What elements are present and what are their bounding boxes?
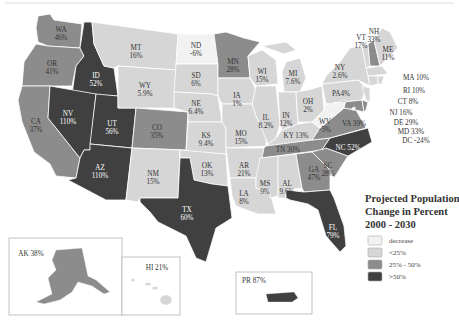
label-WA-abbr: WA	[55, 26, 67, 34]
label-NH-abbr: NH	[369, 28, 379, 36]
label-MS-abbr: MS	[260, 180, 270, 188]
label-AR-value: 21%	[237, 170, 250, 178]
legend-label-gt50: >50%	[389, 273, 406, 281]
label-VA: VA 39%	[342, 120, 366, 128]
label-SD-abbr: SD	[191, 72, 200, 80]
callout-DC: DC -24%	[402, 137, 429, 145]
population-change-map: WA46%OR41%CA37%ID52%NV110%UT56%AZ110%MT1…	[0, 0, 459, 326]
label-TN: TN 30%	[276, 146, 301, 154]
label-IN-value: 12%	[279, 120, 292, 128]
label-SD-value: 6%	[191, 80, 201, 88]
label-AZ-abbr: AZ	[95, 164, 105, 172]
label-MO-value: 15%	[234, 138, 247, 146]
label-IL-value: 8.2%	[259, 122, 274, 130]
inset-alaska: AK 38%	[9, 238, 122, 315]
legend-title-line-2: Change in Percent	[365, 206, 448, 217]
label-ME-abbr: ME	[383, 46, 394, 54]
label-WI-value: 15%	[255, 76, 268, 84]
label-ID-abbr: ID	[92, 72, 100, 80]
label-WV-abbr: WV	[319, 118, 332, 126]
label-MI-abbr: MI	[289, 70, 298, 78]
label-ID-value: 52%	[89, 80, 102, 88]
label-NY-value: 2.6%	[333, 72, 348, 80]
label-MN-value: 28%	[226, 66, 239, 74]
label-TX-value: 60%	[180, 214, 193, 222]
label-NE-abbr: NE	[191, 100, 201, 108]
legend-swatch-decrease	[368, 236, 382, 245]
label-UT-abbr: UT	[107, 120, 117, 128]
label-CA-value: 37%	[29, 126, 42, 134]
legend-label-decrease: decrease	[389, 237, 413, 245]
label-UT-value: 56%	[105, 128, 118, 136]
label-KS-value: 9.4%	[199, 140, 214, 148]
label-CO-abbr: CO	[152, 124, 162, 132]
inset-puerto-rico: PR 87%	[236, 272, 312, 314]
label-AL-abbr: AL	[282, 180, 292, 188]
callout-MA: MA 10%	[403, 74, 429, 82]
label-GA-abbr: GA	[309, 166, 320, 174]
label-WV-value: -5%	[319, 126, 331, 134]
label-NV-value: 110%	[60, 118, 77, 126]
label-LA-abbr: LA	[239, 190, 249, 198]
callout-RI: RI 10%	[403, 87, 425, 95]
legend: Projected Population Change in Percent 2…	[365, 193, 459, 281]
label-SC-abbr: SC	[324, 162, 333, 170]
legend-swatch-25to50	[368, 260, 382, 269]
state-callouts: MA 10% RI 10% CT 8% NJ 16% DE 29% MD 33%…	[390, 74, 430, 145]
label-AK: AK 38%	[18, 250, 43, 258]
inset-hawaii: HI 21%	[122, 257, 180, 315]
label-CA-abbr: CA	[31, 118, 42, 126]
label-NV-abbr: NV	[63, 110, 74, 118]
label-NE-value: 6.4%	[189, 108, 204, 116]
label-WY-abbr: WY	[139, 82, 152, 90]
label-KS-abbr: KS	[201, 132, 210, 140]
label-NH-value: 33%	[367, 36, 380, 44]
legend-label-25to50: 25% - 50%	[389, 261, 421, 269]
legend-title-line-3: 2000 - 2030	[365, 219, 416, 230]
label-AR-abbr: AR	[239, 162, 249, 170]
label-OK-abbr: OK	[202, 162, 213, 170]
state-DC[interactable]	[352, 107, 355, 110]
label-VT-value: 17%	[354, 42, 367, 50]
label-MO-abbr: MO	[235, 130, 247, 138]
label-IA-value: 1%	[232, 100, 242, 108]
label-CO-value: 35%	[150, 132, 163, 140]
label-PR: PR 87%	[242, 277, 266, 285]
callout-DE: DE 29%	[394, 119, 419, 127]
legend-label-lt25: <25%	[389, 249, 406, 257]
label-FL-abbr: FL	[329, 224, 337, 232]
state-RI[interactable]	[378, 76, 384, 84]
callout-NJ: NJ 16%	[390, 109, 413, 117]
label-AL-value: 9.6%	[280, 188, 295, 196]
label-OK-value: 13%	[200, 170, 213, 178]
state-CT[interactable]	[368, 76, 378, 86]
label-OH-value: 2%	[303, 106, 313, 114]
label-TX-abbr: TX	[182, 206, 192, 214]
callout-MD: MD 33%	[398, 128, 425, 136]
label-MS-value: 9%	[260, 188, 270, 196]
label-SC-value: 28%	[321, 170, 334, 178]
legend-swatch-lt25	[368, 248, 382, 257]
label-KY: KY 13%	[283, 132, 308, 140]
label-AZ-value: 110%	[92, 172, 109, 180]
label-NM-value: 15%	[146, 178, 159, 186]
label-MT-value: 16%	[129, 52, 142, 60]
legend-swatch-gt50	[368, 272, 382, 281]
state-FL[interactable]	[286, 190, 346, 252]
state-MA[interactable]	[366, 66, 388, 76]
legend-title-line-1: Projected Population	[365, 193, 459, 204]
label-OR-abbr: OR	[47, 60, 57, 68]
label-NC: NC 52%	[336, 144, 361, 152]
label-IA-abbr: IA	[233, 92, 241, 100]
label-IN-abbr: IN	[282, 112, 290, 120]
label-GA-value: 47%	[307, 174, 320, 182]
label-ND-value: -6%	[190, 50, 202, 58]
label-MT-abbr: MT	[131, 44, 142, 52]
label-WA-value: 46%	[54, 34, 67, 42]
label-MI-value: 7.6%	[286, 78, 301, 86]
label-MN-abbr: MN	[227, 58, 239, 66]
label-PA: PA4%	[332, 90, 350, 98]
label-WY-value: 5.9%	[138, 90, 153, 98]
label-HI: HI 21%	[146, 264, 169, 272]
label-LA-value: 8%	[239, 198, 249, 206]
